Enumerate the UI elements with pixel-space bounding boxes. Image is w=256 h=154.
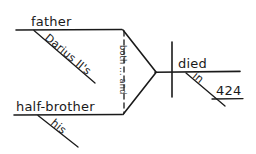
label-preposition-object: 424 [216, 83, 241, 98]
subject-two-baseline [14, 115, 122, 116]
sentence-diagram: father Darius II's half-brother his both… [0, 0, 256, 154]
label-conjunction: both ... and [118, 45, 127, 95]
label-subject-one: father [31, 14, 72, 29]
subject-one-baseline [16, 30, 122, 31]
label-subject-two: half-brother [16, 99, 95, 114]
label-subject-one-modifier: Darius II's [42, 31, 94, 77]
label-subject-two-modifier: his [48, 116, 69, 137]
diagram-canvas: father Darius II's half-brother his both… [0, 0, 256, 154]
label-verb: died [178, 56, 207, 71]
